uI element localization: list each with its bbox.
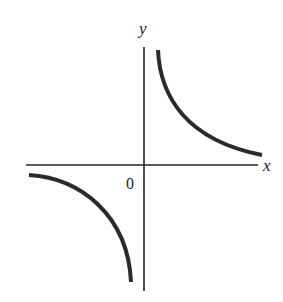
hyperbola-diagram: y x 0 [0, 0, 283, 302]
x-axis-label: x [262, 156, 271, 175]
curve-third-quadrant [29, 175, 131, 282]
origin-label: 0 [126, 175, 134, 192]
curve-first-quadrant [158, 50, 262, 155]
y-axis-label: y [137, 19, 147, 38]
